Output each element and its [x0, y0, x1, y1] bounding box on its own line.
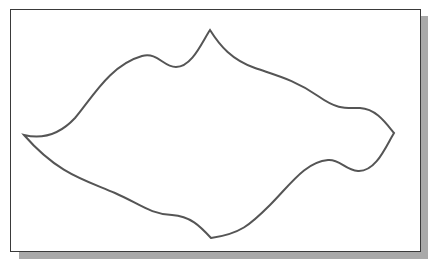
blob-outline	[24, 30, 394, 238]
blob-shape-canvas	[0, 0, 432, 261]
